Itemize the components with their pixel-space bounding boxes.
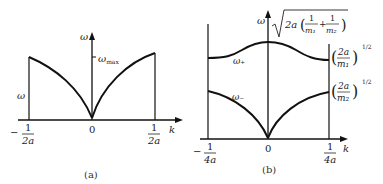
svg-text:2a: 2a (337, 81, 349, 91)
lower-edge-label: ( 2a m₂ ) 1/2 (331, 78, 372, 103)
dispersion-curve-left (29, 57, 92, 118)
dispersion-figure: ω ωmax ω k 0 − 1 2a 1 2a (a) ω₊ ω₋ ω k (0, 0, 383, 184)
curve-label: ω (17, 90, 25, 101)
lower-branch-curve-right (268, 92, 329, 138)
svg-text:m₁: m₁ (337, 59, 349, 69)
tick-zero: 0 (89, 124, 95, 135)
x-axis-arrow-icon (175, 117, 183, 123)
y-axis-label: ω (257, 15, 265, 26)
tick-left-sign: − (193, 146, 201, 157)
svg-text:2a: 2a (337, 47, 349, 57)
svg-text:m₂: m₂ (337, 93, 350, 103)
svg-text:): ) (341, 17, 346, 33)
svg-text:2a: 2a (284, 19, 297, 30)
tick-left-sign: − (10, 127, 18, 138)
x-axis-label: k (343, 143, 349, 154)
tick-left-num: 1 (25, 122, 31, 133)
upper-branch-label: ω₊ (233, 56, 245, 66)
x-axis-label: k (169, 124, 175, 135)
x-axis-arrow-icon (340, 136, 348, 142)
y-axis-label: ω (80, 31, 88, 42)
svg-text:m₁: m₁ (305, 26, 316, 35)
tick-right-den: 4a (323, 154, 336, 165)
tick-right-num: 1 (151, 122, 157, 133)
tick-right-den: 2a (147, 135, 160, 146)
caption-b: (b) (262, 164, 276, 175)
svg-text:1: 1 (330, 14, 335, 23)
panel-b: ω₊ ω₋ ω k 2a ( 1 m₁ + 1 m₂ ) ( 2a m₁ ) 1… (193, 10, 372, 175)
svg-text:): ) (352, 82, 358, 101)
svg-text:m₂: m₂ (326, 26, 337, 35)
y-axis-arrow-icon (89, 32, 95, 40)
caption-a: (a) (84, 169, 98, 180)
tick-right-num: 1 (327, 141, 333, 152)
y-axis-arrow-icon (265, 10, 271, 18)
omega-max-label: ωmax (98, 53, 119, 65)
svg-text:1: 1 (309, 14, 314, 23)
tick-zero: 0 (265, 143, 271, 154)
svg-text:1/2: 1/2 (362, 43, 372, 50)
tick-left-num: 1 (207, 141, 213, 152)
svg-text:1/2: 1/2 (362, 78, 372, 85)
lower-branch-label: ω₋ (232, 92, 244, 102)
max-frequency-label: 2a ( 1 m₁ + 1 m₂ ) (272, 10, 348, 37)
tick-left-den: 4a (203, 154, 216, 165)
svg-text:): ) (352, 48, 358, 67)
tick-left-den: 2a (21, 135, 34, 146)
panel-a: ω ωmax ω k 0 − 1 2a 1 2a (a) (10, 31, 183, 180)
upper-edge-label: ( 2a m₁ ) 1/2 (331, 43, 372, 69)
